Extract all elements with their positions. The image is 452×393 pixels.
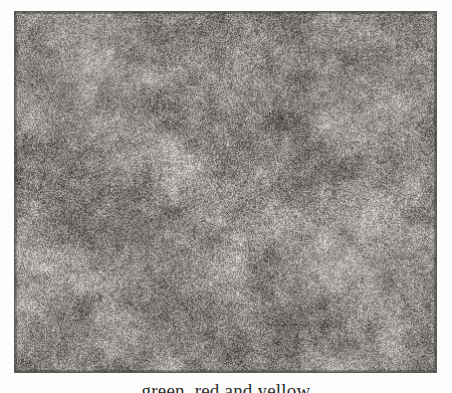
plate-caption: green, red and yellow <box>0 381 452 393</box>
page-canvas: green, red and yellow <box>0 0 452 393</box>
photomicrograph-plate <box>14 11 437 373</box>
plate-caption-text: green, red and yellow <box>0 381 452 393</box>
photomicrograph-texture <box>15 12 436 372</box>
